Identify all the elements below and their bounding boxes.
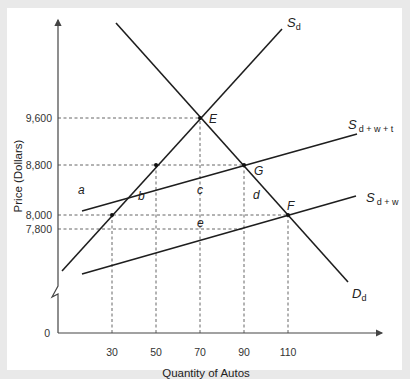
x-tick-label: 30 — [106, 346, 118, 358]
curve-label-s-d-w: Sd + w — [366, 190, 399, 207]
intersection-dot — [286, 213, 290, 217]
curve-label-s-d: Sd — [287, 15, 301, 32]
x-tick-label: 110 — [280, 346, 297, 358]
y-tick-label: 9,600 — [26, 112, 52, 124]
curve-d-d — [116, 23, 348, 282]
curve-label-d-d: Dd — [352, 286, 366, 303]
x-tick-label: 90 — [238, 346, 250, 358]
curve-label-s-d-w-t: Sd + w + t — [348, 117, 394, 134]
y-axis-break — [52, 272, 58, 333]
curve-s-d — [62, 29, 282, 271]
area-label-b: b — [138, 189, 145, 203]
intersection-dot — [242, 163, 246, 167]
curve-s-d-w-t — [82, 134, 357, 211]
point-label-g: G — [254, 164, 263, 178]
point-label-f: F — [287, 199, 295, 213]
intersection-dot — [154, 163, 158, 167]
y-tick-label: 8,000 — [26, 209, 52, 221]
curve-s-d-w — [82, 196, 356, 274]
y-axis-title: Price (Dollars) — [12, 139, 24, 212]
point-label-e: E — [209, 112, 218, 126]
x-tick-label: 70 — [194, 346, 206, 358]
y-tick-label: 7,800 — [26, 223, 52, 235]
intersection-dot — [198, 116, 202, 120]
area-label-a: a — [78, 183, 85, 197]
origin-label: 0 — [44, 327, 50, 339]
area-label-c: c — [197, 183, 203, 197]
y-tick-label: 8,800 — [26, 159, 52, 171]
supply-demand-diagram: 9,600 8,800 8,000 7,800 0 30 50 70 90 11… — [0, 0, 410, 379]
x-axis-title: Quantity of Autos — [162, 367, 250, 379]
area-label-d: d — [253, 188, 260, 202]
intersection-dot — [110, 213, 114, 217]
area-label-e: e — [197, 216, 204, 230]
x-tick-label: 50 — [150, 346, 162, 358]
